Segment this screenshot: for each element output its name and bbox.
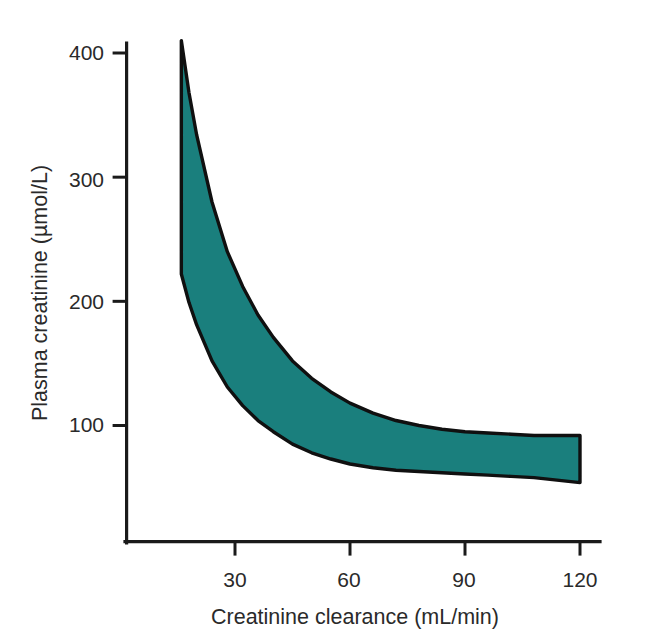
x-tick-label-90: 90 — [452, 568, 475, 591]
y-tick-label-100: 100 — [69, 413, 104, 436]
plot-area: 400 300 200 100 30 60 90 120 Creatinine … — [0, 0, 650, 643]
x-tick-label-30: 30 — [223, 568, 246, 591]
x-axis-ticks — [235, 542, 580, 556]
x-tick-label-60: 60 — [337, 568, 360, 591]
y-tick-label-400: 400 — [69, 41, 104, 64]
chart-figure: 400 300 200 100 30 60 90 120 Creatinine … — [0, 0, 650, 643]
y-tick-label-200: 200 — [69, 290, 104, 313]
creatinine-range-band — [181, 41, 580, 483]
x-axis-title: Creatinine clearance (mL/min) — [211, 605, 499, 629]
y-axis-title: Plasma creatinine (µmol/L) — [28, 165, 52, 421]
y-axis-ticks — [113, 53, 127, 426]
x-tick-label-120: 120 — [562, 568, 597, 591]
y-tick-label-300: 300 — [69, 168, 104, 191]
